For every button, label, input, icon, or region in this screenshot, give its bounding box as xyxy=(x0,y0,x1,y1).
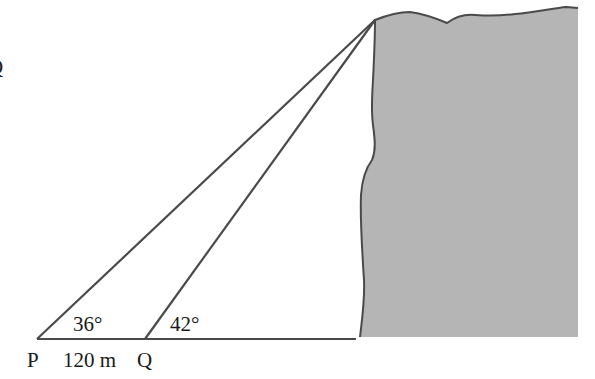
sight-line-p xyxy=(37,20,375,339)
sight-line-q xyxy=(145,20,375,339)
distance-label: 120 m xyxy=(63,348,116,372)
partial-q-label: Q xyxy=(0,55,3,79)
cliff-diagram: 36° 42° P 120 m Q Q xyxy=(0,0,595,379)
point-p-label: P xyxy=(27,348,39,372)
angle-p-label: 36° xyxy=(73,312,102,336)
cliff-shape xyxy=(360,7,578,337)
angle-q-label: 42° xyxy=(170,312,199,336)
point-q-label: Q xyxy=(137,348,152,372)
